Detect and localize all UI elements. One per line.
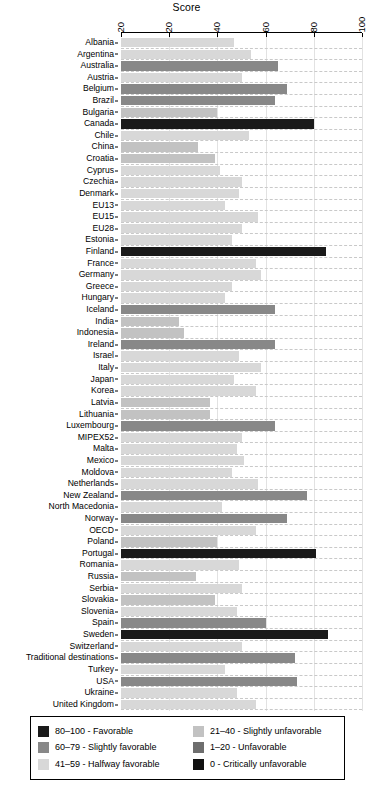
bar: [121, 386, 256, 395]
y-tick-mark: [115, 704, 118, 705]
y-tick-mark: [115, 240, 118, 241]
bar: [121, 456, 244, 465]
bar-row: [121, 72, 362, 84]
y-tick-mark: [115, 228, 118, 229]
bar-row: [121, 501, 362, 513]
y-tick-mark: [115, 611, 118, 612]
y-axis-label: Greece: [0, 281, 118, 293]
bar-row: [121, 571, 362, 583]
legend-box: 80–100 - Favorable60–79 - Slightly favor…: [30, 716, 345, 780]
bar: [121, 502, 222, 511]
bar: [121, 618, 266, 627]
bar: [121, 642, 242, 651]
bar: [121, 560, 239, 569]
bar-row: [121, 211, 362, 223]
y-tick-mark: [115, 437, 118, 438]
axis-title: Score: [0, 1, 373, 13]
y-axis-label: China: [0, 141, 118, 153]
y-axis-label: Brazil: [0, 95, 118, 107]
bar: [121, 317, 179, 326]
y-tick-mark: [115, 681, 118, 682]
bar: [121, 38, 234, 47]
y-axis-label: OECD: [0, 525, 118, 537]
legend-column-left: 80–100 - Favorable60–79 - Slightly favor…: [38, 723, 160, 773]
y-tick-mark: [115, 251, 118, 252]
bar-row: [121, 478, 362, 490]
bar: [121, 84, 287, 93]
bar: [121, 491, 307, 500]
y-axis-label: Turkey: [0, 664, 118, 676]
bar: [121, 96, 275, 105]
x-tick-label: 20: [164, 21, 174, 32]
y-tick-mark: [115, 472, 118, 473]
y-axis-category-labels: AlbaniaArgentinaAustraliaAustriaBelgiumB…: [0, 37, 118, 710]
y-tick-mark: [115, 658, 118, 659]
y-axis-label: Estonia: [0, 234, 118, 246]
y-axis-label: Israel: [0, 350, 118, 362]
y-tick-mark: [115, 449, 118, 450]
y-axis-label: Ireland: [0, 339, 118, 351]
y-tick-mark: [115, 42, 118, 43]
bar: [121, 677, 297, 686]
vertical-gridline: [362, 37, 363, 711]
y-tick-mark: [115, 600, 118, 601]
bar: [121, 50, 251, 59]
y-axis-label: Korea: [0, 385, 118, 397]
x-axis-tick-labels: 2020406080100: [0, 14, 373, 32]
bar: [121, 235, 232, 244]
y-tick-mark: [115, 147, 118, 148]
bar-row: [121, 246, 362, 258]
y-tick-mark: [115, 518, 118, 519]
bar: [121, 351, 239, 360]
y-tick-mark: [115, 321, 118, 322]
x-tick-label: 40: [212, 21, 222, 32]
bar-row: [121, 60, 362, 72]
bar-row: [121, 432, 362, 444]
bar-row: [121, 617, 362, 629]
legend-label: 21–40 - Slightly unfavorable: [210, 726, 322, 737]
x-tick-label: 80: [308, 21, 318, 32]
x-tick-label: 100: [357, 16, 367, 32]
bar: [121, 131, 249, 140]
bar-row: [121, 664, 362, 676]
plot-area: 2020406080100 AlbaniaArgentinaAustraliaA…: [0, 14, 373, 711]
bar: [121, 270, 261, 279]
chart-root: Score 2020406080100 AlbaniaArgentinaAust…: [0, 0, 373, 794]
bar-row: [121, 397, 362, 409]
legend-label: 60–79 - Slightly favorable: [55, 742, 157, 753]
bar-row: [121, 385, 362, 397]
bar-row: [121, 292, 362, 304]
y-tick-mark: [115, 333, 118, 334]
y-axis-label: Bulgaria: [0, 107, 118, 119]
bar-row: [121, 281, 362, 293]
bar-row: [121, 327, 362, 339]
bar-row: [121, 606, 362, 618]
bar-row: [121, 49, 362, 61]
legend-item: 21–40 - Slightly unfavorable: [193, 723, 322, 740]
bar-row: [121, 234, 362, 246]
legend-swatch: [193, 742, 204, 753]
y-tick-mark: [115, 135, 118, 136]
bar: [121, 224, 242, 233]
bar-row: [121, 536, 362, 548]
bar: [121, 549, 316, 558]
y-tick-mark: [115, 507, 118, 508]
bar: [121, 247, 326, 256]
bar: [121, 607, 237, 616]
y-axis-label: Lithuania: [0, 409, 118, 421]
bar: [121, 201, 225, 210]
y-axis-label: Russia: [0, 571, 118, 583]
y-tick-mark: [115, 216, 118, 217]
bar-row: [121, 467, 362, 479]
bar: [121, 305, 275, 314]
y-tick-mark: [115, 623, 118, 624]
bar-row: [121, 188, 362, 200]
bar-row: [121, 559, 362, 571]
legend-swatch: [38, 759, 49, 770]
bar: [121, 653, 295, 662]
legend-swatch: [38, 742, 49, 753]
bar-row: [121, 641, 362, 653]
legend-swatch: [193, 726, 204, 737]
bar-row: [121, 420, 362, 432]
bar-row: [121, 699, 362, 711]
